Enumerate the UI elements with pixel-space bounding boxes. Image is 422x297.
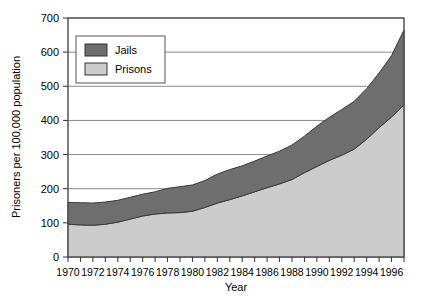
x-tick-label: 1972 xyxy=(81,266,105,278)
y-tick-label: 700 xyxy=(41,12,59,24)
x-tick-label: 1978 xyxy=(156,266,180,278)
y-tick-label: 300 xyxy=(41,149,59,161)
x-tick-label: 1976 xyxy=(131,266,155,278)
y-tick-label: 600 xyxy=(41,46,59,58)
legend-swatch-prisons xyxy=(85,63,107,75)
x-tick-label: 1974 xyxy=(106,266,130,278)
legend-label-jails: Jails xyxy=(115,44,138,56)
y-tick-label: 100 xyxy=(41,217,59,229)
x-tick-label: 1994 xyxy=(355,266,379,278)
x-tick-label: 1992 xyxy=(330,266,354,278)
y-tick-label: 200 xyxy=(41,183,59,195)
legend-swatch-jails xyxy=(85,44,107,56)
x-tick-label: 1986 xyxy=(255,266,279,278)
x-tick-label: 1980 xyxy=(181,266,205,278)
x-tick-label: 1990 xyxy=(305,266,329,278)
x-tick-label: 1996 xyxy=(380,266,404,278)
legend-item-prisons[interactable]: Prisons xyxy=(85,63,152,75)
legend-label-prisons: Prisons xyxy=(115,63,152,75)
x-tick-label: 1988 xyxy=(280,266,304,278)
y-tick-label: 500 xyxy=(41,80,59,92)
y-axis-title: Prisoners per 100,000 population xyxy=(10,56,22,218)
x-axis-title: Year xyxy=(225,281,248,293)
y-tick-label: 0 xyxy=(53,251,59,263)
stacked-area-chart: 0100200300400500600700 19701972197419761… xyxy=(0,0,422,297)
x-tick-label: 1984 xyxy=(231,266,255,278)
x-tick-label: 1970 xyxy=(56,266,80,278)
y-tick-label: 400 xyxy=(41,114,59,126)
chart-legend: Jails Prisons xyxy=(76,36,165,83)
x-tick-label: 1982 xyxy=(206,266,230,278)
chart-container: 0100200300400500600700 19701972197419761… xyxy=(0,0,422,297)
